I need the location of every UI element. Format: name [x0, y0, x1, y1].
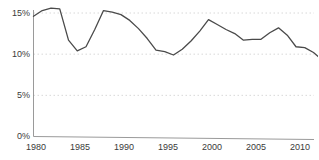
y-axis-tick-label-10: 10% [0, 49, 30, 59]
axes-group [34, 10, 315, 140]
y-axis-tick-label-15: 15% [0, 8, 30, 18]
x-axis-tick-label-2005: 2005 [236, 142, 276, 152]
x-axis-tick-label-1980: 1980 [16, 142, 56, 152]
x-axis-tick-label-1995: 1995 [148, 142, 188, 152]
y-axis-tick-label-0: 0% [0, 131, 30, 141]
x-axis-tick-label-1985: 1985 [60, 142, 100, 152]
x-axis-tick-label-2010: 2010 [280, 142, 318, 152]
data-line-series-0 [34, 8, 319, 60]
x-axis-tick-label-1990: 1990 [104, 142, 144, 152]
x-axis-line [34, 137, 315, 140]
line-chart-plot [0, 0, 318, 160]
y-axis-tick-label-5: 5% [0, 90, 30, 100]
data-series-group [34, 8, 319, 60]
x-axis-tick-label-2000: 2000 [192, 142, 232, 152]
chart-container: 15% 10% 5% 0% 1980 1985 1990 1995 2000 2… [0, 0, 318, 160]
